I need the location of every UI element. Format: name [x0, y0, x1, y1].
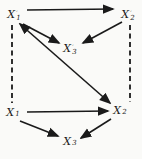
- node-label-x1-prime: X′1: [7, 9, 20, 20]
- node-subscript-x2-prime: 2: [130, 15, 134, 22]
- node-subscript-x1-prime: 1: [16, 15, 20, 22]
- node-label-x2-prime: X′2: [121, 9, 134, 20]
- node-base-x1-prime: X: [7, 9, 15, 20]
- edge-x2-to-x3-arrow: [81, 119, 111, 138]
- node-affix-x1-prime: ′1: [16, 11, 20, 22]
- node-label-x3-prime: X′3: [63, 43, 76, 54]
- node-base-x2: X: [113, 105, 121, 116]
- node-subscript-x3-prime: 3: [72, 49, 76, 56]
- edge-x1-to-x3-arrow: [20, 121, 58, 136]
- node-base-x3-prime: X: [63, 43, 71, 54]
- node-affix-x3-prime: ′3: [72, 45, 76, 56]
- node-subscript-x1: 1: [15, 111, 19, 118]
- edge-x1-prime-to-x2-prime-arrow: [27, 9, 113, 10]
- node-affix-x3: 3: [72, 140, 76, 147]
- node-subscript-x2: 2: [122, 109, 126, 116]
- node-subscript-x3: 3: [72, 140, 76, 147]
- path-diagram-figure: X′1X′2X′3X1X2X3: [0, 0, 142, 159]
- node-base-x1: X: [6, 107, 14, 118]
- node-affix-x2-prime: ′2: [130, 11, 134, 22]
- edge-x1-to-x2-arrow: [27, 111, 108, 112]
- node-base-x3: X: [63, 136, 71, 147]
- node-label-x1: X1: [6, 107, 19, 118]
- node-label-x2: X2: [113, 105, 126, 116]
- node-affix-x2: 2: [122, 109, 126, 116]
- edge-x1-prime-to-x3-prime-arrow: [23, 24, 59, 43]
- edge-x2-prime-to-x3-prime-arrow: [83, 22, 122, 43]
- node-base-x2-prime: X: [121, 9, 129, 20]
- node-affix-x1: 1: [15, 111, 19, 118]
- node-label-x3: X3: [63, 136, 76, 147]
